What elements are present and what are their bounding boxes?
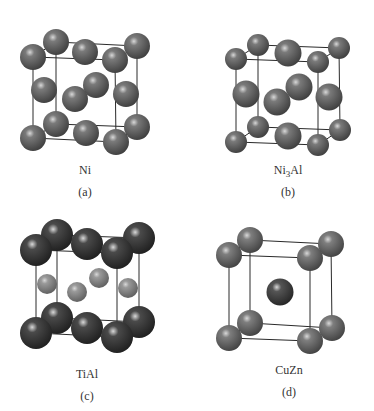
corner-atom xyxy=(307,51,329,73)
face-center-atom xyxy=(62,86,88,112)
face-center-atom xyxy=(113,81,139,107)
ti-atom xyxy=(20,234,52,266)
al-atom xyxy=(118,278,138,298)
panel-letter-c: (c) xyxy=(80,389,93,403)
crystal-structures-figure: Ni (a) Ni3Al (b) TiAl (c) CuZn (d) xyxy=(0,0,374,411)
face-center-atom xyxy=(72,39,98,65)
face-center-atom xyxy=(275,123,302,150)
corner-atom xyxy=(20,44,46,70)
al-atom xyxy=(37,274,57,294)
corner-atom xyxy=(216,242,242,268)
corner-atom xyxy=(20,125,46,151)
corner-atom xyxy=(43,111,69,137)
corner-atom xyxy=(328,37,350,59)
face-center-atom xyxy=(264,89,291,116)
corner-atom xyxy=(102,47,128,73)
corner-atom xyxy=(307,134,329,156)
compound-label-c: TiAl xyxy=(76,367,99,381)
panel-letter-d: (d) xyxy=(282,385,296,399)
ti-atom xyxy=(71,312,103,344)
face-center-atom xyxy=(31,77,57,103)
face-center-atom xyxy=(275,40,302,67)
corner-atom xyxy=(329,119,351,141)
corner-atom xyxy=(247,116,269,138)
compound-label-a: Ni xyxy=(79,163,92,177)
al-atom xyxy=(89,268,109,288)
body-center-atom xyxy=(267,279,294,306)
panel-c-tial xyxy=(20,219,155,353)
compound-label-d: CuZn xyxy=(275,363,302,377)
panel-letter-a: (a) xyxy=(78,185,91,199)
corner-atom xyxy=(237,310,263,336)
face-center-atom xyxy=(316,84,343,111)
face-center-atom xyxy=(286,74,313,101)
corner-atom xyxy=(216,325,242,351)
panel-letter-b: (b) xyxy=(281,185,295,199)
panel-b-ni3al xyxy=(225,34,351,156)
corner-atom xyxy=(225,131,247,153)
corner-atom xyxy=(319,315,345,341)
ti-atom xyxy=(20,317,52,349)
corner-atom xyxy=(237,227,263,253)
corner-atom xyxy=(297,245,323,271)
panel-a-ni xyxy=(20,29,150,155)
ti-atom xyxy=(101,237,133,269)
ti-atom xyxy=(101,321,133,353)
compound-label-b: Ni3Al xyxy=(274,163,303,179)
formula-part: Ni xyxy=(274,163,287,177)
face-center-atom xyxy=(73,120,99,146)
corner-atom xyxy=(247,34,269,56)
corner-atom xyxy=(103,129,129,155)
formula-part: Al xyxy=(290,163,303,177)
corner-atom xyxy=(124,33,150,59)
corner-atom xyxy=(225,48,247,70)
ti-atom xyxy=(71,228,103,260)
corner-atom xyxy=(124,114,150,140)
corner-atom xyxy=(297,328,323,354)
al-atom xyxy=(67,282,87,302)
corner-atom xyxy=(43,29,69,55)
face-center-atom xyxy=(233,81,260,108)
panel-d-cuzn xyxy=(216,227,345,354)
